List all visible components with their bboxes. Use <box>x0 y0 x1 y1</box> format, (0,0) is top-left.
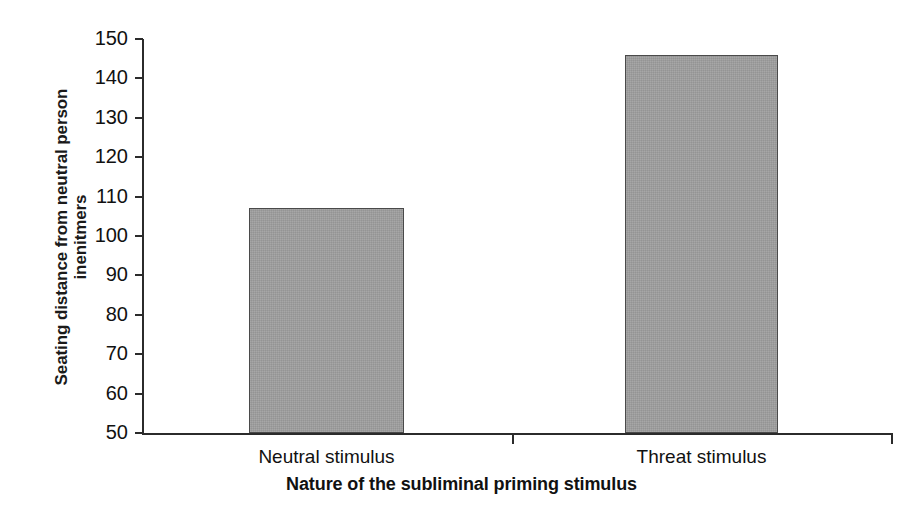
x-axis-tick-mid <box>512 433 514 444</box>
y-axis-title-line-1: Seating distance from neutral person <box>52 89 71 386</box>
x-axis-category-label: Neutral stimulus <box>258 446 394 468</box>
y-axis-title: Seating distance from neutral person ine… <box>43 27 99 447</box>
x-axis-line <box>142 433 893 435</box>
y-axis-tick-label: 60 <box>106 382 128 404</box>
y-axis-tick <box>135 117 143 119</box>
y-axis-tick <box>135 38 143 40</box>
y-axis-tick-label: 80 <box>106 303 128 325</box>
y-axis-tick-label: 110 <box>96 185 128 207</box>
y-axis-tick-label: 70 <box>106 342 128 364</box>
y-axis-tick <box>135 77 143 79</box>
x-axis-title: Nature of the subliminal priming stimulu… <box>0 474 923 495</box>
x-axis-category-label: Threat stimulus <box>637 446 767 468</box>
y-axis-tick <box>135 156 143 158</box>
y-axis-tick <box>135 393 143 395</box>
y-axis-tick <box>135 314 143 316</box>
y-axis-tick <box>135 274 143 276</box>
y-axis-tick-label: 50 <box>106 421 128 443</box>
y-axis-tick-label: 140 <box>95 66 128 88</box>
bar-1 <box>249 208 404 433</box>
y-axis-tick-label: 90 <box>106 263 128 285</box>
plot-area: 5060708090100110120130140150 <box>142 39 893 434</box>
y-axis-tick-label: 120 <box>95 145 128 167</box>
y-axis-tick <box>135 196 143 198</box>
y-axis-tick <box>135 235 143 237</box>
y-axis-title-line-2: inenitmers <box>71 195 90 280</box>
x-axis-tick-end <box>891 433 893 444</box>
y-axis-tick-label: 130 <box>95 106 128 128</box>
y-axis-tick <box>135 432 143 434</box>
bar-chart-figure: Seating distance from neutral person ine… <box>0 0 923 516</box>
y-axis-line <box>142 39 144 435</box>
y-axis-tick-label: 150 <box>95 27 128 49</box>
y-axis-tick-label: 100 <box>95 224 128 246</box>
y-axis-tick <box>135 353 143 355</box>
bar-2 <box>625 55 778 433</box>
